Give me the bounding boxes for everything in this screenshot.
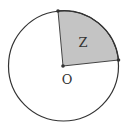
center-label: O <box>62 72 73 87</box>
center-point <box>61 64 65 68</box>
shaded-sector <box>58 11 119 66</box>
circle-diagram: Z O <box>0 0 127 130</box>
sector-label: Z <box>78 35 87 50</box>
sector-point-top <box>56 9 60 13</box>
sector-point-right <box>117 58 121 62</box>
